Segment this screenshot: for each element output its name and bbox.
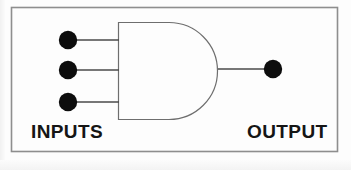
input-terminal-1: [59, 31, 77, 49]
input-terminal-2: [59, 61, 77, 79]
output-label: OUTPUT: [247, 122, 328, 141]
input-terminal-3: [59, 93, 77, 111]
and-gate-figure: INPUTS OUTPUT: [0, 0, 351, 170]
output-terminal: [264, 60, 282, 78]
logic-gate-diagram: [0, 0, 351, 170]
and-gate-body: [119, 23, 218, 120]
inputs-label: INPUTS: [31, 122, 103, 141]
